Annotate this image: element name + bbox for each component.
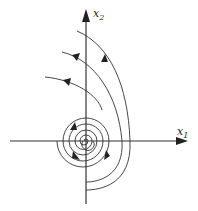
arrowhead-icon bbox=[101, 54, 108, 62]
x2-axis-label: x2 bbox=[93, 8, 104, 22]
arrowhead-icon bbox=[72, 53, 80, 61]
phase-portrait-svg bbox=[0, 0, 198, 211]
arrowhead-icon bbox=[63, 78, 71, 86]
x1-axis-label: x1 bbox=[177, 126, 188, 140]
x2-axis-arrow-icon bbox=[82, 9, 90, 22]
incoming-trajectories bbox=[45, 31, 130, 190]
phase-portrait-diagram: x2 x1 bbox=[0, 0, 198, 211]
spiral-trajectory bbox=[57, 118, 109, 167]
